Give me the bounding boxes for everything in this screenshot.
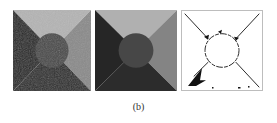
segmented-image-panel xyxy=(95,10,177,91)
edge-map-panel xyxy=(181,10,263,91)
original-image xyxy=(13,10,91,91)
original-image-panel xyxy=(13,10,91,91)
segmented-image xyxy=(95,10,177,91)
figure-caption: (b) xyxy=(0,101,277,112)
edge-map xyxy=(182,11,262,90)
